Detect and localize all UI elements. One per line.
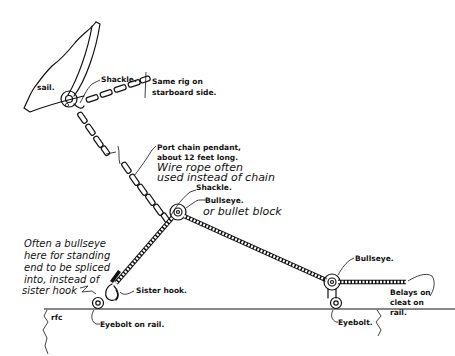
eyebolt-rail-leader bbox=[92, 310, 100, 324]
eyebolt-right bbox=[331, 298, 342, 309]
port-pendant-label-1: Port chain pendant, bbox=[157, 143, 241, 152]
rope-to-right-bullseye bbox=[184, 216, 326, 280]
eyebolt-right-label: Eyebolt. bbox=[338, 318, 373, 327]
bullseye-mid-label-2: or bullet block bbox=[203, 205, 282, 218]
bullseye-right bbox=[324, 274, 340, 298]
often-note-2: here for standing bbox=[24, 250, 110, 261]
shackle-mid-label: Shackle. bbox=[196, 183, 232, 192]
belays-label-3: rail. bbox=[390, 308, 407, 317]
bullseye-right-leader bbox=[338, 258, 354, 275]
bullseye-right-label: Bullseye. bbox=[355, 254, 394, 263]
eyebolt-rail-label: Eyebolt on rail. bbox=[100, 320, 164, 329]
same-rig-label-1: Same rig on bbox=[152, 77, 203, 86]
often-note-leader bbox=[80, 286, 96, 294]
top-shackle bbox=[61, 91, 84, 108]
same-rig-label-2: starboard side. bbox=[152, 88, 217, 97]
sister-hook-label: Sister hook. bbox=[136, 286, 187, 295]
sister-hook bbox=[106, 284, 118, 300]
often-note-1: Often a bullseye bbox=[24, 238, 106, 249]
bullseye-mid-label-1: Bullseye. bbox=[205, 196, 244, 205]
rope-to-sister-hook bbox=[110, 218, 172, 283]
sail-label: sail. bbox=[37, 83, 55, 92]
sail bbox=[24, 22, 100, 112]
shackle-top-label: Shackle. bbox=[101, 75, 137, 84]
belays-label-1: Belays on bbox=[390, 288, 431, 297]
often-note-3: end to be spliced bbox=[24, 262, 111, 273]
rigging-diagram: sail. Shackle. Same rig on starboard sid… bbox=[0, 0, 455, 356]
often-note-5: sister hook bbox=[22, 285, 78, 296]
pendant-leader bbox=[134, 146, 156, 176]
eyebolt-left bbox=[93, 298, 104, 309]
rfc-label: rfc bbox=[51, 313, 62, 322]
belays-label-2: cleat on bbox=[390, 298, 424, 307]
rail-break-left bbox=[43, 310, 48, 354]
often-note-4: into, instead of bbox=[24, 274, 101, 285]
rail-break-right bbox=[376, 310, 381, 336]
sister-hook-leader bbox=[120, 291, 134, 294]
